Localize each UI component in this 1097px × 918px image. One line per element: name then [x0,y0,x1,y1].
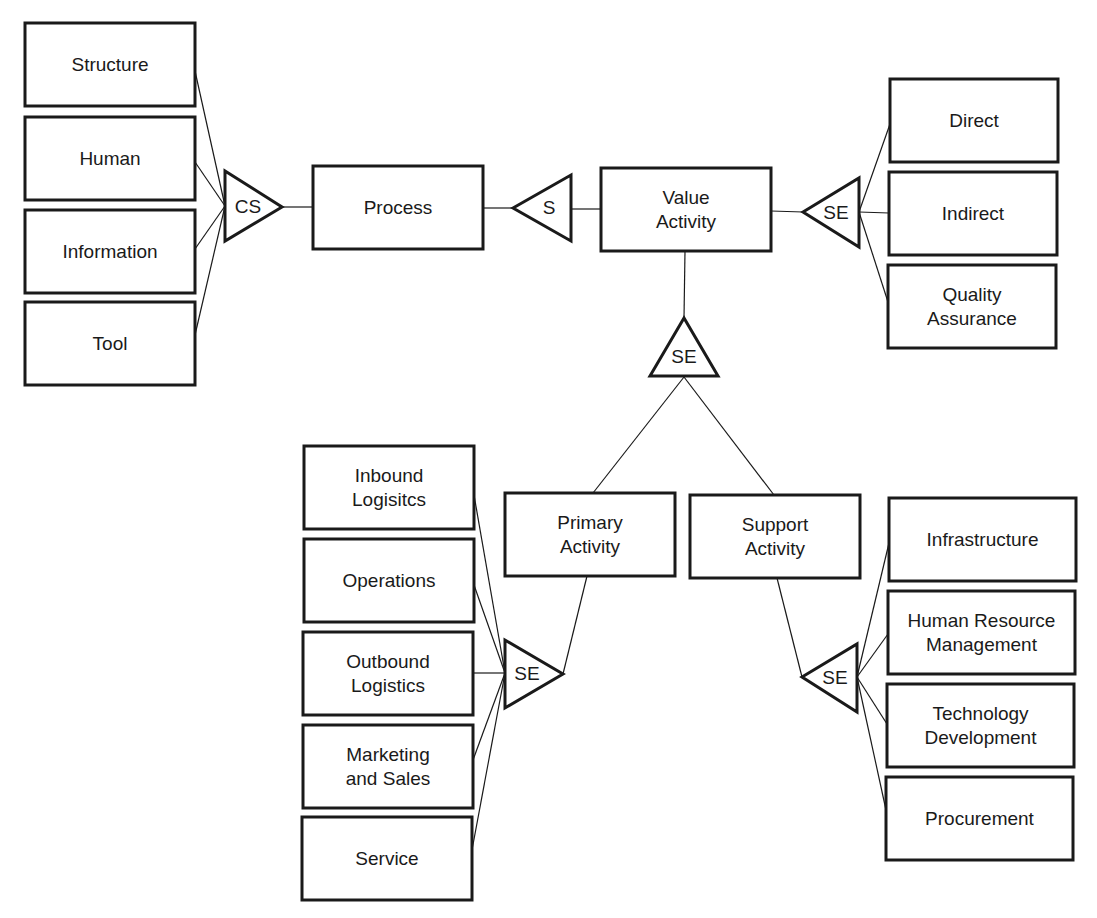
node-label: Assurance [927,308,1017,329]
node-operations: Operations [304,539,474,622]
node-label: Direct [949,110,999,131]
node-label: Quality [942,284,1002,305]
connector-label: SE [822,667,847,688]
connector-label: CS [235,196,261,217]
node-information: Information [25,210,195,293]
edge-structure [195,71,225,206]
node-label: Marketing [346,744,429,765]
node-value-activity: ValueActivity [601,168,771,251]
node-box [304,446,474,529]
node-label: Logisitcs [352,489,426,510]
node-label: Outbound [346,651,429,672]
connector-lines [195,71,890,850]
node-marketing-and-sales: Marketingand Sales [303,725,473,808]
connector-se-center: SE [650,318,718,376]
connector-cs-left: CS [225,171,282,241]
node-box [888,265,1056,348]
edge-service [472,673,505,850]
node-label: Inbound [355,465,424,486]
node-box [303,725,473,808]
connector-label: SE [823,202,848,223]
edge-se-support [857,677,886,810]
node-label: Information [62,241,157,262]
edge-value-activity [684,251,685,318]
node-support-activity: SupportActivity [690,495,860,578]
edge-operations [474,585,505,673]
node-label: Indirect [942,203,1005,224]
node-indirect: Indirect [889,172,1057,255]
node-label: Management [926,634,1038,655]
node-label: Activity [656,211,717,232]
entity-boxes: StructureHumanInformationToolProcessValu… [25,23,1076,900]
node-structure: Structure [25,23,195,106]
value-activity-diagram: StructureHumanInformationToolProcessValu… [0,0,1097,918]
node-label: Development [925,727,1038,748]
node-label: Human [79,148,140,169]
edge-value-activity [771,211,803,212]
node-label: Technology [932,703,1029,724]
node-box [690,495,860,578]
edge-se-support [857,543,889,677]
node-label: Value [662,187,709,208]
node-box [303,632,473,715]
edge-se-center [593,377,684,493]
node-box [505,493,675,576]
node-label: Support [742,514,809,535]
edge-se-right [859,212,888,302]
node-label: Procurement [925,808,1034,829]
edge-se-right [859,124,890,212]
edge-inbound-logistics [474,495,505,673]
node-human: Human [25,117,195,200]
connector-label: SE [514,663,539,684]
node-label: Tool [93,333,128,354]
node-label: Service [355,848,418,869]
node-label: Logistics [351,675,425,696]
node-tool: Tool [25,302,195,385]
connector-se-primary: SE [505,640,563,708]
node-label: and Sales [346,768,431,789]
node-label: Activity [560,536,621,557]
node-outbound-logistics: OutboundLogistics [303,632,473,715]
node-human-resource-management: Human ResourceManagement [888,591,1075,674]
node-box [601,168,771,251]
edge-support-activity [777,578,802,677]
node-box [887,684,1074,767]
node-label: Infrastructure [927,529,1039,550]
node-quality-assurance: QualityAssurance [888,265,1056,348]
node-box [888,591,1075,674]
connector-label: SE [671,346,696,367]
node-inbound-logistics: InboundLogisitcs [304,446,474,529]
edge-marketing-and-sales [473,673,505,760]
edge-se-center [684,377,774,495]
node-label: Process [364,197,433,218]
node-direct: Direct [890,79,1058,162]
node-service: Service [302,817,472,900]
edge-tool [195,206,225,335]
node-process: Process [313,166,483,249]
edge-primary-activity [563,576,587,674]
connector-label: S [543,197,556,218]
node-infrastructure: Infrastructure [889,498,1076,581]
node-procurement: Procurement [886,777,1073,860]
edge-se-support [857,677,887,724]
node-label: Structure [71,54,148,75]
connector-se-right: SE [803,178,859,247]
node-label: Primary [557,512,623,533]
node-primary-activity: PrimaryActivity [505,493,675,576]
node-technology-development: TechnologyDevelopment [887,684,1074,767]
edge-se-right [859,212,889,213]
node-label: Activity [745,538,806,559]
connector-s-top: S [513,175,571,241]
node-label: Human Resource [908,610,1056,631]
connector-se-support: SE [802,644,857,712]
node-label: Operations [343,570,436,591]
